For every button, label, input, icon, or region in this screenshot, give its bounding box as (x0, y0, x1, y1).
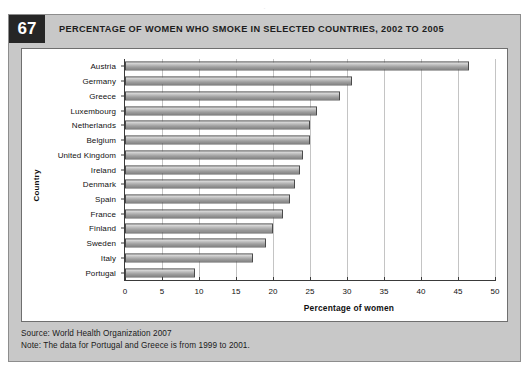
x-axis-tick-label: 40 (417, 287, 426, 296)
category-label: Denmark (83, 180, 116, 189)
x-axis-tick-label: 0 (123, 287, 127, 296)
x-axis-tick (347, 277, 348, 281)
category-label: Finland (89, 224, 116, 233)
bar (125, 77, 352, 86)
page-bleed-text: . (0, 0, 529, 13)
x-axis-tick-label: 10 (195, 287, 204, 296)
category-label: Greece (89, 91, 116, 100)
x-axis-tick-label: 15 (232, 287, 241, 296)
y-axis-title: Country (28, 49, 44, 321)
x-axis-tick-label: 45 (454, 287, 463, 296)
x-axis-tick-label: 20 (269, 287, 278, 296)
x-axis-tick-label: 5 (160, 287, 164, 296)
bar (125, 239, 266, 248)
x-axis-title: Percentage of women (203, 303, 495, 313)
category-label: Ireland (91, 165, 116, 174)
bar (125, 253, 253, 262)
figure-notes: Source: World Health Organization 2007 N… (9, 323, 520, 361)
category-label: France (91, 209, 117, 218)
figure-number-badge: 67 (9, 15, 45, 43)
source-line: Source: World Health Organization 2007 (21, 328, 520, 340)
x-axis-tick (384, 277, 385, 281)
x-axis-tick (236, 277, 237, 281)
x-axis-tick (310, 277, 311, 281)
category-label: Germany (82, 77, 116, 86)
bar (125, 209, 283, 218)
bar (125, 180, 295, 189)
x-axis-tick-label: 30 (343, 287, 352, 296)
bar (125, 194, 290, 203)
axes: Percentage of women 05101520253035404550 (124, 59, 495, 281)
bar (125, 62, 469, 71)
x-axis-tick-label: 35 (380, 287, 389, 296)
category-label: Spain (95, 194, 116, 203)
plot-area: AustriaGermanyGreeceLuxembourgNetherland… (46, 59, 495, 281)
chart-card: Country AustriaGermanyGreeceLuxembourgNe… (21, 48, 508, 322)
gridline (347, 59, 348, 280)
category-label: Belgium (86, 136, 116, 145)
category-label: Italy (101, 253, 116, 262)
note-line: Note: The data for Portugal and Greece i… (21, 340, 520, 352)
bar (125, 91, 340, 100)
x-axis-tick (162, 277, 163, 281)
bar (125, 121, 310, 130)
x-axis-tick (421, 277, 422, 281)
category-labels: AustriaGermanyGreeceLuxembourgNetherland… (46, 59, 120, 281)
x-axis-tick (495, 277, 496, 281)
figure-title: PERCENTAGE OF WOMEN WHO SMOKE IN SELECTE… (45, 15, 520, 43)
y-axis-title-label: Country (32, 169, 41, 201)
bar (125, 106, 317, 115)
category-label: Luxembourg (71, 106, 116, 115)
figure-header: 67 PERCENTAGE OF WOMEN WHO SMOKE IN SELE… (9, 15, 520, 43)
category-label: Austria (90, 62, 116, 71)
x-axis-tick (125, 277, 126, 281)
gridline (421, 59, 422, 280)
x-axis-tick (273, 277, 274, 281)
figure-panel: 67 PERCENTAGE OF WOMEN WHO SMOKE IN SELE… (8, 14, 521, 362)
bar (125, 224, 273, 233)
bar (125, 150, 303, 159)
figure-page: . 67 PERCENTAGE OF WOMEN WHO SMOKE IN SE… (0, 0, 529, 372)
gridline (384, 59, 385, 280)
x-axis-tick (199, 277, 200, 281)
category-label: Netherlands (72, 121, 116, 130)
bar (125, 268, 195, 277)
gridline (495, 59, 496, 280)
gridline (458, 59, 459, 280)
bar (125, 165, 300, 174)
x-axis-tick-label: 50 (491, 287, 500, 296)
bar (125, 135, 310, 144)
category-label: Portugal (85, 268, 116, 277)
category-label: United Kingdom (58, 150, 116, 159)
category-label: Sweden (86, 239, 116, 248)
x-axis-tick-label: 25 (306, 287, 315, 296)
x-axis-tick (458, 277, 459, 281)
